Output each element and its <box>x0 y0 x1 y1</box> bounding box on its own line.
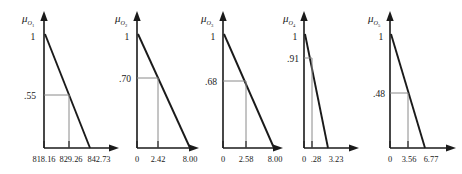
membership-curve <box>138 34 190 148</box>
y-axis-label-index: 5 <box>378 23 381 28</box>
fuzzy-membership-figure: μO1 1 .55 818.16 829.26 842.73 μO2 1 .70… <box>0 0 462 174</box>
peak-value-label: 1 <box>31 31 36 42</box>
x-tick-label-2: 842.73 <box>87 155 110 164</box>
y-axis-label-index: 2 <box>125 23 128 28</box>
x-tick-label-0: 0 <box>135 155 139 164</box>
x-tick-label-2: 3.23 <box>329 155 344 164</box>
membership-chart-4: μO4 1 .91 0 .28 3.23 <box>281 0 371 174</box>
x-tick-label-1: .28 <box>311 155 321 164</box>
level-value-label: .48 <box>373 88 385 99</box>
x-tick-label-1: 2.58 <box>239 155 254 164</box>
level-value-label: .91 <box>287 53 299 64</box>
level-value-label: .68 <box>205 76 217 87</box>
x-tick-label-1: 829.26 <box>59 155 82 164</box>
peak-value-label: 1 <box>293 31 298 42</box>
y-axis-label-mu: μO3 <box>200 12 214 28</box>
x-tick-label-0: 818.16 <box>32 155 55 164</box>
chart-4-canvas: μO4 1 .91 0 .28 3.23 <box>281 0 371 174</box>
membership-chart-2: μO2 1 .70 0 2.42 8.00 <box>110 0 205 174</box>
membership-chart-3: μO3 1 .68 0 2.58 8.00 <box>196 0 291 174</box>
y-axis-label-mu: μO1 <box>21 12 35 28</box>
peak-value-label: 1 <box>125 31 130 42</box>
y-axis-label-mu: μO5 <box>367 12 381 28</box>
peak-value-label: 1 <box>211 31 216 42</box>
chart-1-canvas: μO1 1 .55 818.16 829.26 842.73 <box>0 0 120 174</box>
chart-3-canvas: μO3 1 .68 0 2.58 8.00 <box>196 0 291 174</box>
chart-5-canvas: μO5 1 .48 0 3.56 6.77 <box>366 0 462 174</box>
x-tick-label-1: 3.56 <box>402 155 417 164</box>
membership-curve <box>305 34 328 148</box>
y-axis-arrowhead-icon <box>300 11 307 21</box>
x-tick-label-0: 0 <box>302 155 306 164</box>
y-axis-label-index: 1 <box>32 23 35 28</box>
x-axis-arrowhead-icon <box>349 145 359 152</box>
y-axis-label-index: 4 <box>293 23 296 28</box>
y-axis-label-mu: μO2 <box>114 12 128 28</box>
membership-curve <box>224 34 274 148</box>
x-tick-label-2: 6.77 <box>424 155 439 164</box>
level-value-label: .70 <box>119 73 131 84</box>
membership-curve <box>45 34 90 148</box>
peak-value-label: 1 <box>379 31 384 42</box>
y-axis-arrowhead-icon <box>219 11 226 21</box>
y-axis-arrowhead-icon <box>40 11 47 21</box>
y-axis-arrowhead-icon <box>386 11 393 21</box>
membership-chart-1: μO1 1 .55 818.16 829.26 842.73 <box>0 0 120 174</box>
y-axis-label-mu: μO4 <box>282 12 296 28</box>
x-tick-label-0: 0 <box>388 155 392 164</box>
chart-2-canvas: μO2 1 .70 0 2.42 8.00 <box>110 0 205 174</box>
x-tick-label-0: 0 <box>221 155 225 164</box>
y-axis-label-index: 3 <box>211 23 214 28</box>
level-value-label: .55 <box>24 90 36 101</box>
membership-chart-5: μO5 1 .48 0 3.56 6.77 <box>366 0 462 174</box>
x-axis-arrowhead-icon <box>446 145 456 152</box>
x-tick-label-1: 2.42 <box>151 155 166 164</box>
y-axis-arrowhead-icon <box>133 11 140 21</box>
